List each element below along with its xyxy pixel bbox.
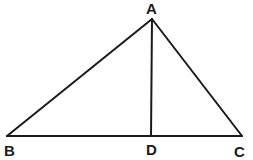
vertex-label-b: B	[4, 142, 15, 159]
vertex-label-a: A	[146, 0, 157, 17]
segment-ad-altitude	[151, 19, 152, 136]
segment-ac	[152, 19, 242, 136]
vertex-label-d: D	[146, 141, 157, 158]
segment-ab	[7, 19, 152, 136]
triangle-diagram: A B D C	[0, 0, 253, 160]
vertex-label-c: C	[234, 143, 245, 160]
